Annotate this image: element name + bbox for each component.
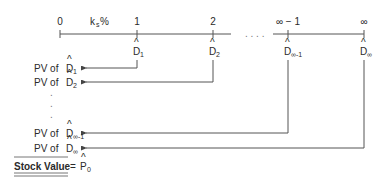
discount-rate-label: k s % [90,16,109,28]
arrow-d1 [86,60,137,68]
svg-text:∞-1: ∞-1 [291,51,302,58]
vertical-ellipsis: . . . [50,87,53,120]
period-label-inf-minus-1: ∞ − 1 [276,16,301,27]
arrow-d2 [86,60,213,82]
svg-text:.: . [50,98,53,109]
timeline-gap-dots: . . . . [245,28,264,39]
svg-text:%: % [100,16,109,27]
svg-text:2: 2 [73,82,77,89]
period-label-0: 0 [57,16,63,27]
stock-value-label: Stock Value [14,161,71,172]
arrow-d-inf [86,60,364,148]
svg-text:PV of: PV of [34,63,59,74]
discount-arrows [86,60,364,148]
svg-text:∞: ∞ [73,148,78,155]
svg-text:1: 1 [140,51,144,58]
period-label-2: 2 [210,16,216,27]
svg-text:0: 0 [87,166,91,173]
cashflow-d1: ^ D 1 [133,37,144,58]
pv-row-d-inf-minus-1: PV of ^ D ∞-1 [34,119,84,140]
svg-text:PV of: PV of [34,143,59,154]
timeline: . . . . 0 1 2 ∞ − 1 ∞ k s % ^ D 1 ^ D 2 [57,16,372,58]
svg-text:PV of: PV of [34,77,59,88]
cashflow-d-inf-minus-1: ^ D ∞-1 [284,37,302,58]
period-label-1: 1 [134,16,140,27]
svg-text:.: . [50,87,53,98]
svg-text:.: . [50,109,53,120]
cashflow-d-inf: ^ D ∞ [360,37,372,58]
period-label-inf: ∞ [360,16,367,27]
dividend-valuation-diagram: . . . . 0 1 2 ∞ − 1 ∞ k s % ^ D 1 ^ D 2 [0,0,384,183]
svg-text:1: 1 [73,68,77,75]
cashflow-d2: ^ D 2 [209,37,220,58]
stock-value-result: Stock Value = ^ P 0 [14,152,91,176]
svg-text:∞-1: ∞-1 [73,133,84,140]
svg-text:∞: ∞ [367,51,372,58]
svg-text:2: 2 [216,51,220,58]
equals-sign: = [70,161,76,172]
p0-symbol: P [80,161,87,172]
arrow-d-inf-minus-1 [86,60,288,133]
svg-text:PV of: PV of [34,128,59,139]
